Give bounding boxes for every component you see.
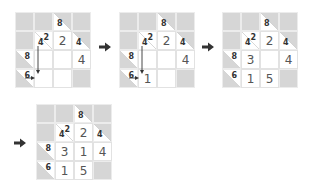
answer-cell: 2 xyxy=(260,31,279,50)
across-clue: 8 xyxy=(45,144,51,153)
block-cell xyxy=(93,104,112,123)
answer-cell xyxy=(157,69,176,88)
clue-cell: 4 xyxy=(72,31,91,50)
right-arrow-icon xyxy=(202,42,214,52)
cell-value: 5 xyxy=(75,162,92,179)
clue-cell: 4 xyxy=(279,31,298,50)
block-cell xyxy=(138,12,157,31)
cell-value xyxy=(261,51,278,68)
cell-value: 4 xyxy=(94,143,111,160)
cell-value: 4 xyxy=(177,51,194,68)
right-arrow-icon xyxy=(99,42,111,52)
answer-cell: 2 xyxy=(157,31,176,50)
answer-cell xyxy=(157,50,176,69)
right-arrow-icon xyxy=(14,138,26,148)
clue-cell: 42 xyxy=(34,31,53,50)
answer-cell: 4 xyxy=(93,142,112,161)
clue-cell: 6 xyxy=(119,69,138,88)
block-cell xyxy=(55,104,74,123)
clue-cell: 8 xyxy=(74,104,93,123)
block-cell xyxy=(176,12,195,31)
puzzle-grid-step3: 84224834615 xyxy=(222,12,298,88)
cell-value: 3 xyxy=(56,143,73,160)
across-clue: 8 xyxy=(24,52,30,61)
answer-cell: 5 xyxy=(74,161,93,180)
across-clue: 2 xyxy=(250,33,256,42)
clue-cell: 6 xyxy=(222,69,241,88)
puzzle-grid-step2: 842248461 xyxy=(119,12,195,88)
cell-value: 2 xyxy=(261,32,278,49)
across-clue: 6 xyxy=(45,163,51,172)
clue-cell: 42 xyxy=(55,123,74,142)
clue-cell: 4 xyxy=(93,123,112,142)
block-cell xyxy=(36,123,55,142)
across-clue: 6 xyxy=(231,71,237,80)
answer-cell: 2 xyxy=(53,31,72,50)
answer-cell xyxy=(34,69,53,88)
block-cell xyxy=(279,69,298,88)
block-cell xyxy=(222,31,241,50)
block-cell xyxy=(15,12,34,31)
answer-cell: 2 xyxy=(74,123,93,142)
across-clue: 2 xyxy=(64,125,70,134)
answer-cell: 3 xyxy=(241,50,260,69)
clue-cell: 4 xyxy=(176,31,195,50)
cell-value: 1 xyxy=(139,70,156,87)
cell-value: 1 xyxy=(56,162,73,179)
clue-cell: 42 xyxy=(241,31,260,50)
answer-cell: 1 xyxy=(241,69,260,88)
block-cell xyxy=(241,12,260,31)
down-clue: 8 xyxy=(264,19,270,28)
clue-cell: 8 xyxy=(36,142,55,161)
cell-value xyxy=(139,51,156,68)
block-cell xyxy=(176,69,195,88)
across-clue: 6 xyxy=(128,71,134,80)
across-clue: 6 xyxy=(24,71,30,80)
clue-cell: 8 xyxy=(222,50,241,69)
block-cell xyxy=(72,69,91,88)
down-clue: 4 xyxy=(283,38,289,47)
cell-value: 4 xyxy=(280,51,297,68)
answer-cell: 1 xyxy=(74,142,93,161)
cell-value xyxy=(35,70,52,87)
clue-cell: 8 xyxy=(260,12,279,31)
clue-cell: 8 xyxy=(53,12,72,31)
block-cell xyxy=(119,31,138,50)
block-cell xyxy=(72,12,91,31)
cell-value: 1 xyxy=(242,70,259,87)
block-cell xyxy=(93,161,112,180)
cell-value xyxy=(158,51,175,68)
cell-value: 1 xyxy=(75,143,92,160)
cell-value xyxy=(35,51,52,68)
cell-value: 4 xyxy=(73,51,90,68)
block-cell xyxy=(34,12,53,31)
answer-cell xyxy=(53,50,72,69)
across-clue: 2 xyxy=(147,33,153,42)
across-clue: 2 xyxy=(43,33,49,42)
across-clue: 8 xyxy=(128,52,134,61)
block-cell xyxy=(15,31,34,50)
clue-cell: 42 xyxy=(138,31,157,50)
answer-cell xyxy=(34,50,53,69)
cell-value: 3 xyxy=(242,51,259,68)
clue-cell: 6 xyxy=(36,161,55,180)
down-clue: 8 xyxy=(161,19,167,28)
across-clue: 8 xyxy=(231,52,237,61)
cell-value: 5 xyxy=(261,70,278,87)
answer-cell: 4 xyxy=(72,50,91,69)
clue-cell: 6 xyxy=(15,69,34,88)
cell-value xyxy=(158,70,175,87)
answer-cell: 4 xyxy=(176,50,195,69)
down-clue: 8 xyxy=(78,111,84,120)
answer-cell: 3 xyxy=(55,142,74,161)
answer-cell: 1 xyxy=(55,161,74,180)
clue-cell: 8 xyxy=(157,12,176,31)
cell-value xyxy=(54,70,71,87)
answer-cell: 5 xyxy=(260,69,279,88)
cell-value: 2 xyxy=(54,32,71,49)
clue-cell: 8 xyxy=(15,50,34,69)
puzzle-grid-step1: 84224846 xyxy=(15,12,91,88)
answer-cell: 4 xyxy=(279,50,298,69)
down-clue: 4 xyxy=(180,38,186,47)
answer-cell xyxy=(53,69,72,88)
